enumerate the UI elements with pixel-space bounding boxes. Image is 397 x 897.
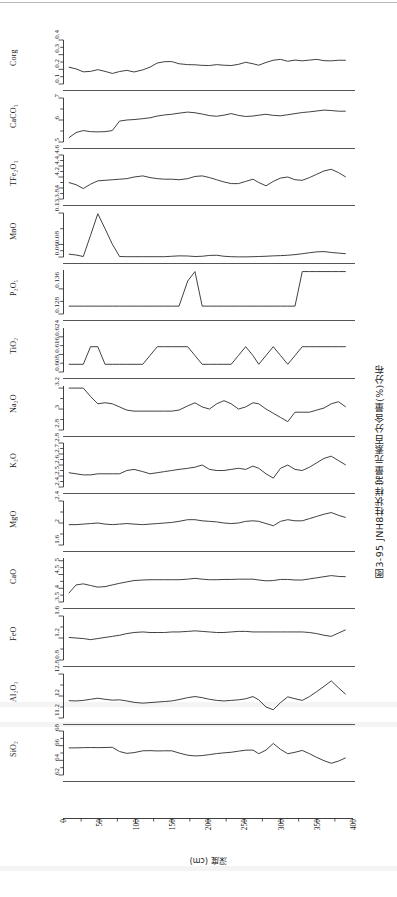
plot-area-MgO [63, 501, 353, 545]
plot-svg-CaO [63, 558, 357, 612]
series-line-CaCO3 [69, 110, 346, 138]
series-line-MgO [69, 512, 346, 525]
plot-area-CaO [63, 558, 353, 602]
y-tick-label: 3.2 [54, 377, 61, 386]
plot-area-Corg [63, 40, 353, 84]
y-tick-label: 0.3 [54, 44, 61, 53]
y-tick-labels-P2O5: 0.1280.136 [24, 266, 62, 314]
y-tick-label: 2.5 [54, 466, 61, 475]
figure-root: Corg0.10.20.30.4CaCO₃567TFe₂O₃3.844.24.4… [0, 0, 397, 897]
y-tick-label: 0.4 [54, 30, 61, 39]
y-tick-label: 68 [54, 724, 61, 731]
y-tick-label: 2.8 [54, 433, 61, 442]
top-divider-rule [0, 2, 397, 3]
plot-svg-FeO [63, 616, 357, 670]
plot-area-MnO [63, 213, 353, 257]
panel-label-P2O5: P₂O₅ [2, 266, 24, 310]
y-tick-label: 0.128 [54, 297, 61, 313]
y-tick-label: 0.616 [54, 337, 61, 353]
x-tick-label: 300 [277, 819, 286, 830]
x-tick-label: 100 [132, 819, 141, 830]
y-tick-label: 12.8 [54, 660, 61, 672]
y-tick-label: 3.8 [54, 189, 61, 198]
y-tick-label: 4.5 [54, 565, 61, 574]
panel-label-K2O: K₂O [2, 439, 24, 483]
y-tick-label: 62 [54, 768, 61, 775]
y-tick-label: 0.1 [54, 74, 61, 83]
series-line-CaO [69, 576, 346, 594]
y-tick-labels-Na2O: 2.833.2 [24, 382, 62, 430]
y-tick-labels-CaO: 3.544.55 [24, 554, 62, 602]
series-line-MnO [69, 214, 346, 257]
panel-label-TiO2: TiO₂ [2, 324, 24, 368]
panel-label-CaCO3: CaCO₃ [2, 94, 24, 138]
y-tick-label: 2.4 [54, 491, 61, 500]
y-tick-label: 0.136 [54, 272, 61, 288]
y-tick-label: 0.2 [54, 59, 61, 68]
series-line-P2O5 [69, 272, 346, 307]
series-line-TFe2O3 [69, 169, 346, 188]
panel-label-TFe2O3: TFe₂O₃ [2, 151, 24, 195]
panel-SiO2: SiO₂62646668 [0, 727, 360, 785]
figure-caption: 图3-95 JNH8柱状样常量元素百分含量(%)分布 [373, 258, 393, 578]
y-tick-labels-TiO2: 0.6080.6160.624 [24, 324, 62, 372]
y-tick-label: 2.8 [54, 419, 61, 428]
plot-svg-MnO [63, 213, 357, 267]
x-tick-label: 50 [95, 819, 104, 827]
series-line-Al2O3 [69, 680, 346, 709]
y-tick-labels-CaCO3: 567 [24, 94, 62, 142]
y-tick-labels-SiO2: 62646668 [24, 727, 62, 775]
panel-label-CaO: CaO [2, 554, 24, 598]
panel-stack: Corg0.10.20.30.4CaCO₃567TFe₂O₃3.844.24.4… [0, 36, 360, 785]
panel-Al2O3: Al₂O₃11.21212.8 [0, 670, 360, 728]
y-tick-label: 1.6 [54, 606, 61, 615]
panel-label-MgO: MgO [2, 497, 24, 541]
panel-K2O: K₂O2.42.52.62.72.8 [0, 439, 360, 497]
y-tick-label: 4 [54, 585, 61, 589]
y-tick-label: 0.06 [54, 243, 61, 255]
panel-label-SiO2: SiO₂ [2, 727, 24, 771]
y-tick-label: 1.6 [54, 535, 61, 544]
plot-area-K2O [63, 443, 353, 487]
series-line-Na2O [69, 388, 346, 422]
panel-CaO: CaO3.544.55 [0, 554, 360, 612]
y-tick-label: 3 [54, 405, 61, 409]
series-line-FeO [69, 630, 346, 640]
y-tick-label: 4.4 [54, 156, 61, 165]
y-tick-label: 66 [54, 739, 61, 746]
panel-TiO2: TiO₂0.6080.6160.624 [0, 324, 360, 382]
y-tick-label: 11.2 [54, 704, 61, 716]
panel-MnO: MnO0.060.080.13 [0, 209, 360, 267]
plot-area-P2O5 [63, 270, 353, 314]
series-line-Corg [69, 59, 346, 73]
y-tick-label: 0.13 [54, 199, 61, 211]
plot-area-TFe2O3 [63, 155, 353, 199]
plot-svg-SiO2 [63, 731, 357, 785]
y-tick-label: 2.7 [54, 444, 61, 453]
x-axis-title: 深度 (cm) [63, 856, 353, 867]
series-line-TiO2 [69, 347, 346, 365]
y-tick-label: 3.5 [54, 592, 61, 601]
x-tick-label: 250 [240, 819, 249, 830]
x-tick-label: 400 [349, 819, 358, 830]
plot-svg-MgO [63, 501, 357, 555]
panel-label-Al2O3: Al₂O₃ [2, 670, 24, 714]
plot-svg-TFe2O3 [63, 155, 357, 209]
y-tick-label: 5 [54, 138, 61, 142]
y-tick-labels-TFe2O3: 3.844.24.44.6 [24, 151, 62, 199]
x-tick-label: 350 [313, 819, 322, 830]
y-tick-label: 0.08 [54, 231, 61, 243]
plot-area-Al2O3 [63, 674, 353, 718]
panel-Corg: Corg0.10.20.30.4 [0, 36, 360, 94]
plot-area-Na2O [63, 386, 353, 430]
panel-P2O5: P₂O₅0.1280.136 [0, 266, 360, 324]
y-tick-labels-MgO: 1.622.4 [24, 497, 62, 545]
x-tick-label: 150 [168, 819, 177, 830]
plot-svg-Corg [63, 40, 357, 94]
plot-svg-K2O [63, 443, 357, 497]
y-tick-label: 0.624 [54, 320, 61, 336]
panel-MgO: MgO1.622.4 [0, 497, 360, 555]
x-tick-label: 200 [204, 819, 213, 830]
panel-Na2O: Na₂O2.833.2 [0, 382, 360, 440]
plot-area-TiO2 [63, 328, 353, 372]
